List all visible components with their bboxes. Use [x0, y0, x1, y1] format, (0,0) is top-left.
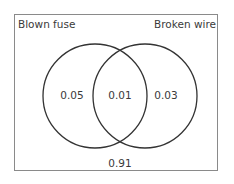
set-label-blown-fuse: Blown fuse: [18, 18, 75, 30]
region-outside: 0.91: [108, 157, 131, 169]
region-only-broken-wire: 0.03: [154, 89, 177, 101]
set-label-broken-wire: Broken wire: [154, 18, 216, 30]
region-intersection: 0.01: [108, 89, 131, 101]
region-only-blown-fuse: 0.05: [60, 89, 83, 101]
